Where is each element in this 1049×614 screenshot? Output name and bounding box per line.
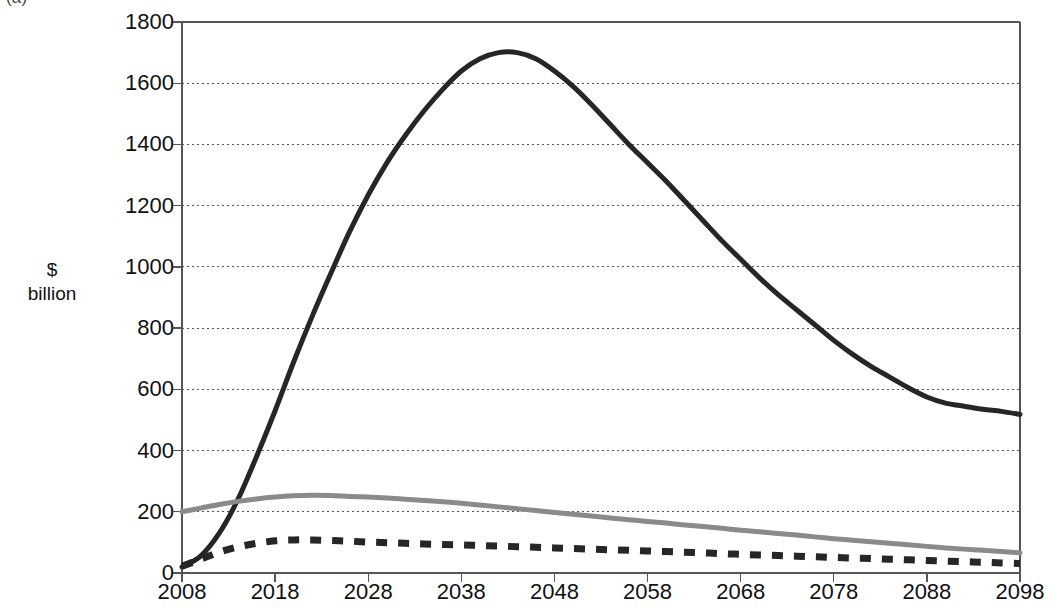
chart-figure: (a) $ billion 02004006008001000120014001…	[0, 0, 1049, 614]
plot-canvas	[0, 0, 1049, 614]
series-gray-solid	[182, 495, 1020, 553]
series-black-solid	[182, 52, 1020, 567]
